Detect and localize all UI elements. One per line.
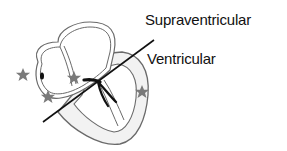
sa-node — [40, 72, 44, 79]
star-icon — [16, 68, 30, 81]
ventricular-label: Ventricular — [147, 51, 216, 66]
supraventricular-label: Supraventricular — [145, 12, 251, 27]
